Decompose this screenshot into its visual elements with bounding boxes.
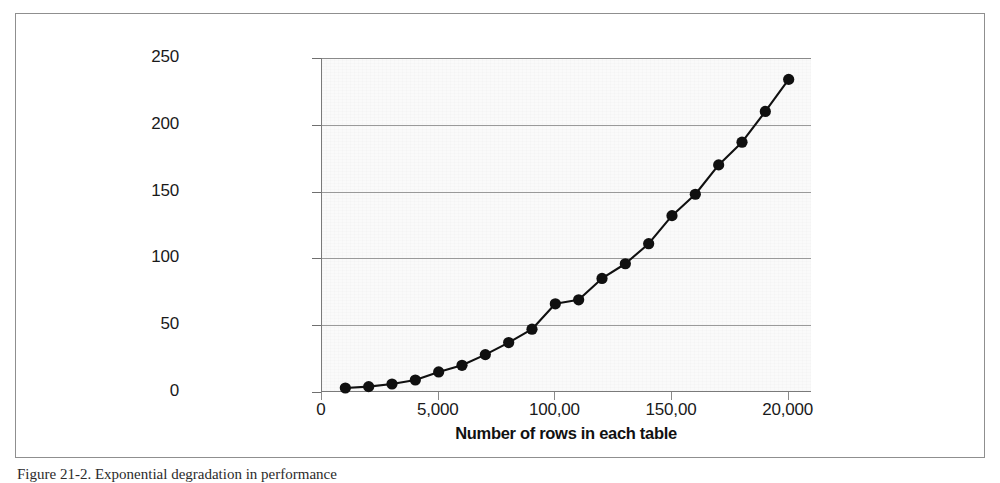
x-axis-tick-label: 150,00 bbox=[621, 400, 721, 420]
data-point-marker bbox=[736, 137, 747, 148]
data-point-marker bbox=[480, 349, 491, 360]
data-point-marker bbox=[760, 106, 771, 117]
data-series-line bbox=[322, 58, 812, 392]
x-axis-tick-mark bbox=[671, 392, 672, 400]
chart-plot-area bbox=[321, 58, 811, 392]
data-point-marker bbox=[363, 381, 374, 392]
data-point-marker bbox=[456, 360, 467, 371]
y-axis-tick-mark bbox=[312, 258, 321, 259]
x-axis-tick-label: 5,000 bbox=[388, 400, 488, 420]
x-axis-tick-mark bbox=[321, 392, 322, 400]
y-axis-tick-mark bbox=[312, 58, 321, 59]
y-axis-tick-mark bbox=[312, 192, 321, 193]
data-point-marker bbox=[596, 273, 607, 284]
data-point-marker bbox=[573, 294, 584, 305]
y-axis-tick-label: 150 bbox=[119, 181, 179, 201]
x-axis-tick-label: 0 bbox=[271, 400, 371, 420]
figure-caption: Figure 21-2. Exponential degradation in … bbox=[17, 466, 337, 483]
data-point-marker bbox=[433, 366, 444, 377]
y-axis-tick-mark bbox=[312, 125, 321, 126]
y-axis-tick-label: 50 bbox=[119, 314, 179, 334]
data-point-marker bbox=[340, 382, 351, 393]
data-point-marker bbox=[550, 298, 561, 309]
x-axis-title: Number of rows in each table bbox=[321, 424, 811, 443]
data-point-marker bbox=[386, 378, 397, 389]
x-axis-tick-mark bbox=[788, 392, 789, 400]
y-axis-tick-label: 100 bbox=[119, 247, 179, 267]
x-axis-tick-mark bbox=[438, 392, 439, 400]
data-point-marker bbox=[526, 324, 537, 335]
y-axis-tick-mark bbox=[312, 392, 321, 393]
data-point-marker bbox=[713, 159, 724, 170]
data-point-marker bbox=[503, 337, 514, 348]
y-axis-tick-mark bbox=[312, 325, 321, 326]
figure-frame: 050100150200250 05,000100,00150,0020,000… bbox=[15, 13, 985, 458]
x-axis-tick-label: 20,000 bbox=[738, 400, 838, 420]
y-axis-tick-label: 250 bbox=[119, 47, 179, 67]
data-point-marker bbox=[666, 210, 677, 221]
data-point-marker bbox=[690, 189, 701, 200]
x-axis-tick-label: 100,00 bbox=[504, 400, 604, 420]
y-axis-tick-label: 0 bbox=[119, 381, 179, 401]
data-point-marker bbox=[643, 238, 654, 249]
data-point-marker bbox=[410, 374, 421, 385]
x-axis-tick-mark bbox=[554, 392, 555, 400]
data-point-marker bbox=[620, 258, 631, 269]
series-path bbox=[345, 79, 788, 388]
y-axis-tick-label: 200 bbox=[119, 114, 179, 134]
data-point-marker bbox=[783, 74, 794, 85]
